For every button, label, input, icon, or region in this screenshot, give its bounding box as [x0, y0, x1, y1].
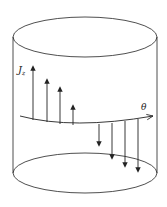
- theta-label: θ: [141, 102, 147, 112]
- current-density-label: Jz: [16, 64, 26, 76]
- cylinder: [13, 17, 157, 193]
- current-down-arrows: [99, 119, 138, 170]
- top-ellipse: [13, 17, 157, 57]
- current-up-arrows: [33, 68, 73, 125]
- theta-axis-curve: [20, 116, 153, 123]
- cylinder-diagram: Jz θ: [0, 0, 167, 207]
- bottom-ellipse: [13, 153, 157, 193]
